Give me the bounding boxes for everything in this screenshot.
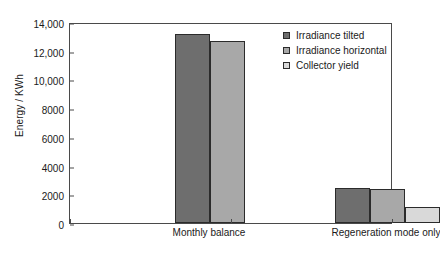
- legend-item: Irradiance horizontal: [283, 44, 387, 57]
- legend-label: Irradiance horizontal: [296, 45, 387, 56]
- legend-label: Collector yield: [296, 60, 359, 71]
- y-tick-mark: [70, 225, 74, 226]
- x-tick-mark: [70, 219, 71, 223]
- y-tick-label: 10,000: [33, 76, 70, 87]
- plot-area: 0200040006000800010,00012,00014,000 Irra…: [69, 23, 392, 224]
- y-tick-label: 0: [58, 220, 70, 231]
- y-tick-label: 12,000: [33, 47, 70, 58]
- y-tick-label: 4000: [42, 162, 70, 173]
- y-axis-title: Energy / KWh: [14, 56, 25, 156]
- y-tick-label: 2000: [42, 191, 70, 202]
- x-category-label: Regeneration mode only: [332, 227, 440, 238]
- legend-swatch-icon: [283, 62, 290, 69]
- y-tick-label: 14,000: [33, 19, 70, 30]
- legend-swatch-icon: [283, 32, 290, 39]
- y-tick-label: 8000: [42, 105, 70, 116]
- x-tick-mark: [392, 219, 393, 223]
- x-category-label: Monthly balance: [173, 227, 246, 238]
- y-tick-label: 6000: [42, 133, 70, 144]
- legend-item: Irradiance tilted: [283, 29, 387, 42]
- legend-label: Irradiance tilted: [296, 30, 364, 41]
- legend-item: Collector yield: [283, 59, 387, 72]
- legend-swatch-icon: [283, 47, 290, 54]
- legend: Irradiance tiltedIrradiance horizontalCo…: [283, 29, 387, 74]
- x-tick-mark: [231, 219, 232, 223]
- bar: [405, 207, 440, 224]
